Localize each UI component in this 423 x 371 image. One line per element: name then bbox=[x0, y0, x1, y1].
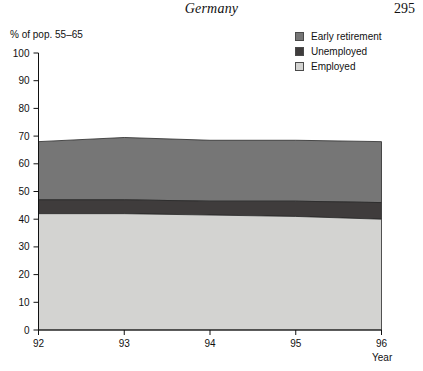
y-tick-label: 50 bbox=[18, 186, 30, 197]
y-tick-label: 10 bbox=[18, 297, 30, 308]
x-axis-ticks: 9293949596 bbox=[33, 330, 388, 349]
y-tick-label: 20 bbox=[18, 269, 30, 280]
y-tick-label: 40 bbox=[18, 214, 30, 225]
x-tick-label: 95 bbox=[290, 338, 302, 349]
y-tick-label: 100 bbox=[13, 48, 30, 59]
y-tick-label: 90 bbox=[18, 75, 30, 86]
y-tick-label: 80 bbox=[18, 103, 30, 114]
y-tick-label: 60 bbox=[18, 158, 30, 169]
y-tick-label: 70 bbox=[18, 131, 30, 142]
x-tick-label: 92 bbox=[33, 338, 45, 349]
chart-series-group bbox=[39, 137, 382, 330]
y-tick-label: 30 bbox=[18, 241, 30, 252]
area-series-early-retirement bbox=[39, 137, 382, 202]
stacked-area-chart: 1009080706050403020100 9293949596 bbox=[0, 0, 423, 371]
y-tick-label: 0 bbox=[24, 325, 30, 336]
x-tick-label: 94 bbox=[204, 338, 216, 349]
x-tick-label: 96 bbox=[376, 338, 388, 349]
area-series-employed bbox=[39, 214, 382, 330]
x-axis-title: Year bbox=[372, 352, 392, 363]
chart-plot-area: 1009080706050403020100 9293949596 Year bbox=[0, 0, 423, 371]
y-axis-ticks: 1009080706050403020100 bbox=[13, 48, 39, 336]
x-tick-label: 93 bbox=[119, 338, 131, 349]
